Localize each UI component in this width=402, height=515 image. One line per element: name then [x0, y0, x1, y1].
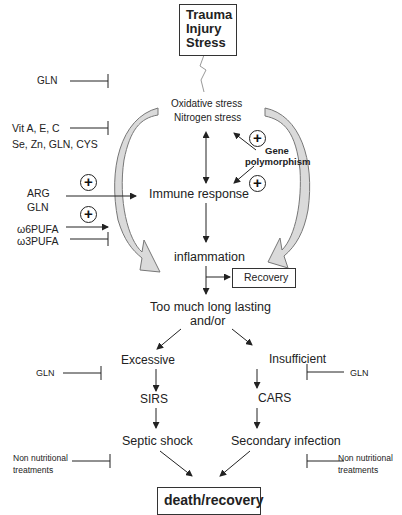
- polymorphism-label: polymorphism: [245, 157, 310, 168]
- sirs-label: SIRS: [140, 393, 168, 407]
- gene-plus-bottom-icon: +: [249, 175, 266, 192]
- arg-plus-icon: +: [80, 174, 97, 191]
- outcome-label: death/recovery: [164, 492, 264, 508]
- gln-top-label: GLN: [37, 75, 58, 87]
- vit-label: Vit A, E, C: [12, 122, 60, 134]
- and-or-label: and/or: [190, 314, 225, 328]
- non-nutr-left-1: Non nutritional: [13, 454, 68, 464]
- secondary-infection-label: Secondary infection: [231, 434, 341, 448]
- immune-response-label: Immune response: [149, 187, 249, 201]
- minerals-label: Se, Zn, GLN, CYS: [12, 138, 98, 150]
- too-much-label: Too much long lasting: [150, 300, 271, 314]
- septic-outcome-arrow: [160, 451, 192, 476]
- pufa-plus-icon: +: [80, 206, 97, 223]
- septic-shock-label: Septic shock: [122, 434, 193, 448]
- inflammation-label: inflammation: [174, 250, 245, 264]
- gln-insufficient-label: GLN: [350, 368, 369, 378]
- stress-label: Stress: [186, 36, 226, 51]
- non-nutr-right-1: Non nutritional: [338, 454, 393, 464]
- gln-excessive-label: GLN: [36, 368, 55, 378]
- nitrogen-stress-label: Nitrogen stress: [174, 112, 241, 124]
- w3pufa-label: ω3PUFA: [17, 235, 58, 247]
- secondary-outcome-arrow: [220, 451, 250, 476]
- non-nutr-right-2: treatments: [338, 466, 378, 476]
- to-insufficient-arrow: [232, 329, 252, 345]
- w6pufa-label: ω6PUFA: [17, 223, 58, 235]
- oxidative-stress-label: Oxidative stress: [171, 98, 242, 110]
- gln-mid-label: GLN: [27, 201, 49, 213]
- lightning-connector: [200, 55, 206, 92]
- to-excessive-arrow: [157, 329, 181, 349]
- gene-plus-top-icon: +: [249, 130, 266, 147]
- recovery-label: Recovery: [244, 271, 288, 283]
- excessive-label: Excessive: [121, 354, 175, 368]
- insufficient-label: Insufficient: [269, 353, 326, 367]
- cars-label: CARS: [258, 392, 291, 406]
- non-nutr-left-2: treatments: [13, 466, 53, 476]
- arg-label: ARG: [27, 187, 50, 199]
- right-curved-arrow: [265, 108, 310, 268]
